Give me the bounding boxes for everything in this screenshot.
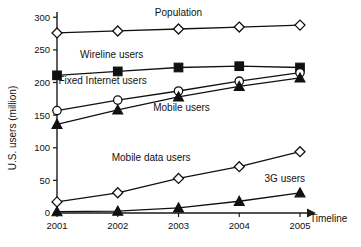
data-point-marker	[174, 63, 183, 72]
series-label: Population	[155, 7, 202, 18]
y-axis-tick-label: 250	[34, 44, 50, 55]
x-axis-tick-label: 2002	[107, 220, 128, 231]
x-axis-title: Timeline	[310, 213, 348, 224]
data-point-marker	[234, 22, 244, 32]
series-label: Wireline users	[80, 49, 143, 60]
data-point-marker	[295, 147, 305, 157]
y-axis-title: U.S. users (million)	[7, 86, 18, 170]
y-axis-tick-label: 50	[39, 175, 50, 186]
chart-series	[52, 188, 305, 216]
data-point-marker	[174, 24, 184, 34]
x-axis-tick-label: 2004	[229, 220, 250, 231]
series-label: Mobile users	[153, 102, 210, 113]
x-axis-tick-label: 2001	[46, 220, 67, 231]
data-point-marker	[53, 106, 61, 114]
y-axis-tick-label: 150	[34, 110, 50, 121]
data-point-marker	[234, 162, 244, 172]
series-label: 3G users	[265, 173, 306, 184]
series-label: Mobile data users	[112, 152, 191, 163]
series-label-collection: PopulationWireline usersFixed Internet u…	[58, 7, 305, 184]
y-axis-tick-label: 200	[34, 77, 50, 88]
y-axis-tick-label: 300	[34, 12, 50, 23]
data-point-marker	[113, 188, 123, 198]
data-point-marker	[295, 20, 305, 30]
data-point-marker	[52, 28, 62, 38]
data-point-marker	[114, 96, 122, 104]
line-chart: 050100150200250300 20012002200320042005 …	[0, 0, 361, 247]
y-axis-tick-label: 0	[45, 207, 50, 218]
y-axis: 050100150200250300	[34, 12, 57, 219]
data-point-marker	[295, 188, 305, 197]
y-axis-tick-label: 100	[34, 142, 50, 153]
data-point-marker	[113, 26, 123, 36]
series-label: Fixed Internet users	[58, 75, 146, 86]
chart-series	[52, 20, 305, 38]
data-point-marker	[174, 173, 184, 183]
data-point-marker	[52, 197, 62, 207]
chart-container: 050100150200250300 20012002200320042005 …	[0, 0, 361, 247]
data-point-marker	[113, 67, 122, 76]
x-axis-tick-label: 2005	[289, 220, 310, 231]
data-point-marker	[235, 62, 244, 71]
x-axis-tick-label: 2003	[168, 220, 189, 231]
